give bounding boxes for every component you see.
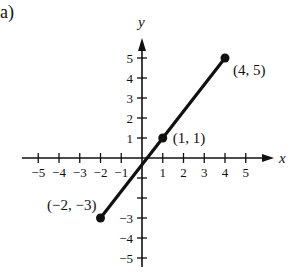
x-tick-label: −2 [94,165,108,180]
marks [96,54,230,223]
x-tick-label: 5 [243,165,250,180]
x-tick-label: −4 [52,165,66,180]
y-tick-label: −5 [119,251,133,266]
x-tick-label: 4 [222,165,229,180]
x-tick-label: −1 [114,165,128,180]
y-tick-label: 5 [127,51,134,66]
y-tick-label: −3 [119,211,133,226]
coordinate-plot: xy−5−4−3−2−112345−5−4−312345(−2, −3)(1, … [0,0,298,280]
y-tick-label: −4 [119,231,133,246]
x-tick-label: −3 [73,165,87,180]
y-tick-label: 3 [127,91,134,106]
x-axis-arrow-icon [262,154,274,162]
point-label: (4, 5) [233,62,266,79]
y-axis-arrow-icon [138,38,146,51]
y-tick-label: 1 [127,131,134,146]
data-point [221,54,230,63]
point-label: (1, 1) [173,130,206,147]
x-tick-label: −5 [31,165,45,180]
y-tick-label: 2 [127,111,134,126]
data-point [96,214,105,223]
x-tick-label: 1 [160,165,167,180]
y-tick-label: 4 [127,71,134,86]
point-label: (−2, −3) [47,197,96,214]
x-tick-label: 2 [180,165,187,180]
x-axis-label: x [278,150,286,166]
x-tick-label: 3 [201,165,208,180]
data-point [158,134,167,143]
y-axis-label: y [136,14,145,30]
